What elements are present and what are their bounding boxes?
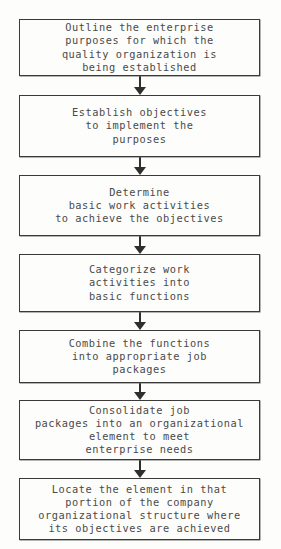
- process-box-label: Locate the element in that portion of th…: [20, 483, 259, 536]
- arrow-head-down-icon: [134, 167, 146, 175]
- arrow-head-down-icon: [134, 470, 146, 478]
- process-box-label: Combine the functions into appropriate j…: [20, 337, 259, 377]
- arrow-head-down-icon: [134, 322, 146, 330]
- arrow-head-down-icon: [134, 246, 146, 254]
- process-box-label: Outline the enterprise purposes for whic…: [20, 21, 259, 74]
- process-box-establish-objectives: Establish objectives to implement the pu…: [19, 95, 260, 157]
- arrow-node6-to-node7: [134, 460, 147, 478]
- process-box-categorize-work-activities: Categorize work activities into basic fu…: [19, 254, 260, 312]
- process-box-locate-element-in-company-structure: Locate the element in that portion of th…: [19, 478, 260, 540]
- arrow-head-down-icon: [134, 87, 146, 95]
- process-box-label: Determine basic work activities to achie…: [20, 186, 259, 226]
- process-box-label: Categorize work activities into basic fu…: [20, 263, 259, 303]
- arrow-head-down-icon: [134, 392, 146, 400]
- process-box-label: Consolidate job packages into an organiz…: [20, 404, 259, 457]
- arrow-node4-to-node5: [134, 312, 147, 330]
- arrow-node5-to-node6: [134, 383, 147, 400]
- flowchart-canvas: Outline the enterprise purposes for whic…: [0, 0, 281, 549]
- process-box-label: Establish objectives to implement the pu…: [20, 106, 259, 146]
- process-box-determine-basic-work-activities: Determine basic work activities to achie…: [19, 175, 260, 236]
- process-box-consolidate-job-packages: Consolidate job packages into an organiz…: [19, 400, 260, 460]
- process-box-combine-functions-into-job-packages: Combine the functions into appropriate j…: [19, 330, 260, 383]
- arrow-node2-to-node3: [134, 157, 147, 175]
- arrow-node1-to-node2: [134, 76, 147, 95]
- process-box-outline-enterprise-purposes: Outline the enterprise purposes for whic…: [19, 19, 260, 76]
- flowchart-page: Outline the enterprise purposes for whic…: [0, 0, 281, 549]
- arrow-node3-to-node4: [134, 236, 147, 254]
